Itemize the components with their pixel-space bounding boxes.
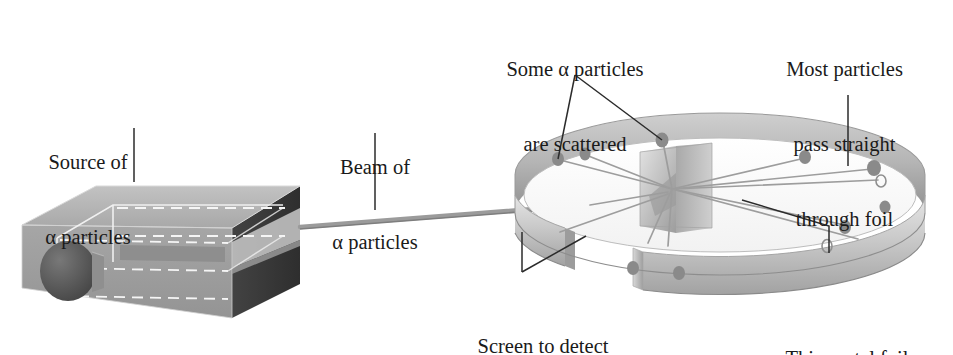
most-label-line-1: Most particles: [742, 57, 947, 82]
most-label-line-2: pass straight: [742, 132, 947, 157]
scattered-label-line-2: are scattered: [452, 132, 698, 157]
screen-label-line-1: Screen to detect: [398, 334, 688, 355]
foil-label-line-1: Thin metal foil: [752, 346, 942, 355]
some-alpha-particles-are-scattered-label: Some α particles are scattered: [452, 7, 698, 207]
beam-of-alpha-particles-label: Beam of α particles: [300, 105, 450, 305]
beam-label-line-2: α particles: [300, 230, 450, 255]
rutherford-experiment-diagram: Source of α particles Beam of α particle…: [0, 0, 953, 355]
most-particles-pass-straight-through-foil-label: Most particles pass straight through foi…: [742, 7, 947, 282]
source-of-alpha-particles-label: Source of α particles: [8, 100, 168, 300]
screen-to-detect-scattered-alpha-particles-label: Screen to detect scattered α particles: [398, 284, 688, 355]
scattered-label-line-1: Some α particles: [452, 57, 698, 82]
source-label-line-2: α particles: [8, 225, 168, 250]
thin-metal-foil-label: Thin metal foil: [752, 296, 942, 355]
beam-label-line-1: Beam of: [300, 155, 450, 180]
source-label-line-1: Source of: [8, 150, 168, 175]
most-label-line-3: through foil: [742, 207, 947, 232]
